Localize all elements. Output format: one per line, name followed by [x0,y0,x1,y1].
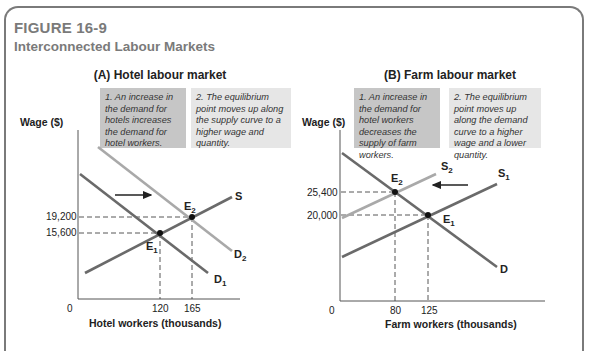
panel-a-label-e2: E2 [184,200,196,215]
panel-a-ytick-19200: 19,200 [46,211,77,222]
panel-b-xtick-125: 125 [421,305,438,316]
panel-a-label-d1: D1 [214,273,227,288]
panel-a-origin: 0 [67,303,73,314]
panel-b-point-e2 [392,189,398,195]
panel-a-curve-d2 [98,147,232,251]
panel-a-xtick-120: 120 [152,303,169,314]
panel-a-xlabel: Hotel workers (thousands) [89,317,221,329]
panel-b-label-e1: E1 [443,213,455,228]
panel-a-xtick-165: 165 [184,303,201,314]
panel-b-label-e2: E2 [391,172,403,187]
panel-b-curve-s1 [342,184,497,257]
panel-b-label-d: D [500,263,508,275]
panel-a-chart: Wage ($) 0 120 165 19,200 15,600 Hotel w… [20,116,247,329]
panel-a-point-e1 [157,230,163,236]
panel-b-label-s2: S2 [441,160,453,175]
panel-a-label-e1: E1 [146,240,158,255]
panel-a-label-d2: D2 [234,248,247,263]
panel-a-ytick-15600: 15,600 [46,227,77,238]
panel-a-ylabel: Wage ($) [20,116,63,128]
panel-b-ylabel: Wage ($) [302,116,345,128]
panel-b-chart: Wage ($) 0 80 125 25,400 20,000 Farm wor… [302,116,545,330]
panel-b-ytick-25400: 25,400 [307,187,338,198]
panel-b-curve-d [342,153,497,267]
panel-a-curve-d1 [80,174,208,273]
panel-b-xtick-80: 80 [390,305,402,316]
panel-b-origin: 0 [329,305,335,316]
panel-b-xlabel: Farm workers (thousands) [385,318,517,330]
panel-b-label-s1: S1 [498,167,510,182]
panel-b-point-e1 [425,212,431,218]
panel-b-ytick-20000: 20,000 [307,210,338,221]
panel-a-label-s: S [235,190,242,202]
